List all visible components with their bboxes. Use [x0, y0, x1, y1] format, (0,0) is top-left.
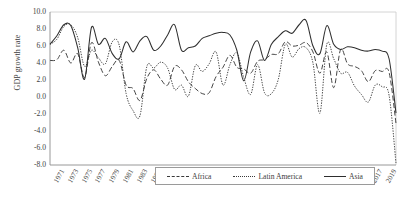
legend-label: Africa [192, 172, 211, 181]
gdp-growth-line-chart: GDP growth rate 10.08.06.04.02.00.0-2.0-… [0, 0, 410, 223]
legend-swatch-dotted-icon [233, 176, 255, 177]
chart-legend: AfricaLatin AmericaAsia [155, 167, 375, 185]
legend-swatch-solid-icon [324, 176, 346, 177]
series-line-africa [50, 42, 396, 124]
plot-frame [50, 12, 396, 165]
legend-item-africa[interactable]: Africa [167, 172, 211, 181]
legend-item-asia[interactable]: Asia [324, 172, 363, 181]
legend-item-latin-america[interactable]: Latin America [233, 172, 302, 181]
series-lines [50, 19, 396, 163]
series-line-latin-america [50, 24, 396, 163]
series-line-asia [50, 19, 396, 113]
legend-swatch-dashed-icon [167, 176, 189, 177]
legend-label: Latin America [258, 172, 302, 181]
plot-canvas [0, 0, 410, 223]
legend-label: Asia [349, 172, 363, 181]
